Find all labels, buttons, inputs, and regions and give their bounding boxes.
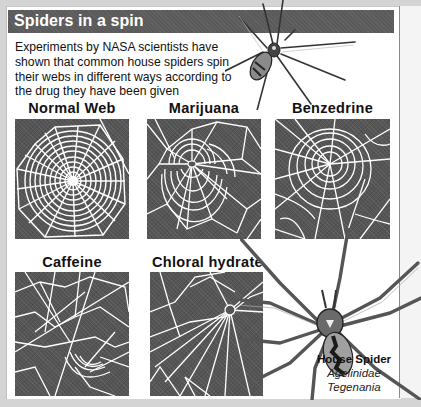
spider-illustration-top <box>225 0 395 110</box>
spider-caption: House Spider Agelinidae Tegenania <box>313 352 395 394</box>
marijuana-web-icon <box>147 119 261 239</box>
web-image-caffeine <box>15 272 129 396</box>
page-title: Spiders in a spin <box>14 11 144 31</box>
spider-common-name: House Spider <box>313 352 395 366</box>
spider-genus: Tegenania <box>313 380 395 394</box>
web-image-normal <box>15 119 129 239</box>
benzedrine-web-icon <box>275 119 390 239</box>
intro-text: Experiments by NASA scientists have show… <box>15 40 245 99</box>
web-image-benzedrine <box>275 119 390 239</box>
web-image-marijuana <box>147 119 261 239</box>
label-caffeine: Caffeine <box>15 254 129 270</box>
spider-family: Agelinidae <box>313 366 395 380</box>
caffeine-web-icon <box>15 272 129 396</box>
label-normal-web: Normal Web <box>15 100 129 116</box>
normal-web-icon <box>15 119 129 239</box>
